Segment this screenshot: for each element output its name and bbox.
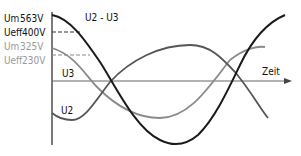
ueff-high-value: 400V	[22, 27, 46, 38]
um-high-label: Um	[4, 13, 19, 24]
ueff-low-value: 230V	[22, 55, 46, 66]
u2-minus-u3-curve	[52, 15, 285, 144]
arrow-right-icon	[284, 78, 292, 84]
um-low-label: Um	[4, 41, 19, 52]
ueff-high-label: Ueff	[4, 27, 23, 38]
u2-minus-u3-label: U2 - U3	[85, 12, 119, 23]
u2-label: U2	[61, 105, 73, 116]
um-low-value: 325V	[20, 41, 44, 52]
u3-curve	[52, 47, 265, 118]
u3-label: U3	[62, 68, 74, 79]
voltage-phase-diagram: Um 563V Ueff 400V Um 325V Ueff 230V U2 -…	[0, 0, 301, 156]
time-axis-label: Zeit	[262, 66, 280, 77]
ueff-low-label: Ueff	[4, 55, 23, 66]
um-high-value: 563V	[20, 13, 44, 24]
